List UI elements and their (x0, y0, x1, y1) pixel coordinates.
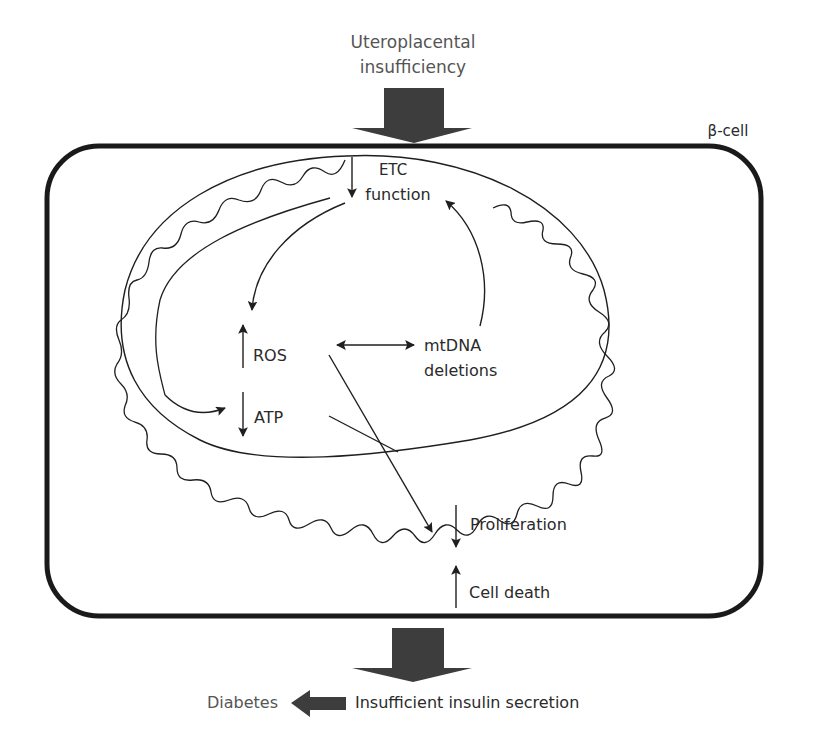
mtdna-label-line1: mtDNA (424, 336, 481, 355)
cell-label: β-cell (708, 122, 749, 140)
block-arrow-down-icon (352, 628, 472, 682)
mitochondrion-cristae (115, 160, 615, 543)
beta-cell-diagram: Uteroplacental insufficiency β-cell ETC … (0, 0, 814, 751)
etc-label-line2: function (365, 185, 430, 204)
cell-death-label: Cell death (469, 583, 550, 602)
cause-label-line2: insufficiency (360, 57, 466, 77)
block-arrow-left-icon (291, 690, 346, 717)
atp-label: ATP (254, 408, 283, 427)
block-arrow-down-icon (352, 88, 472, 143)
curve-to-atp-arrow-icon (165, 395, 225, 412)
proliferation-label: Proliferation (470, 515, 567, 534)
mtdna-label-line2: deletions (424, 361, 497, 380)
ros-label: ROS (253, 346, 287, 365)
cause-label-line1: Uteroplacental (351, 32, 476, 52)
etc-label-line1: ETC (379, 161, 407, 179)
outcome-label: Insufficient insulin secretion (355, 693, 579, 712)
atp-to-outcome-line (329, 416, 398, 452)
diabetes-label: Diabetes (207, 693, 278, 712)
cell-boundary (47, 146, 761, 616)
mtdna-to-etc-arrow-icon (446, 201, 485, 326)
